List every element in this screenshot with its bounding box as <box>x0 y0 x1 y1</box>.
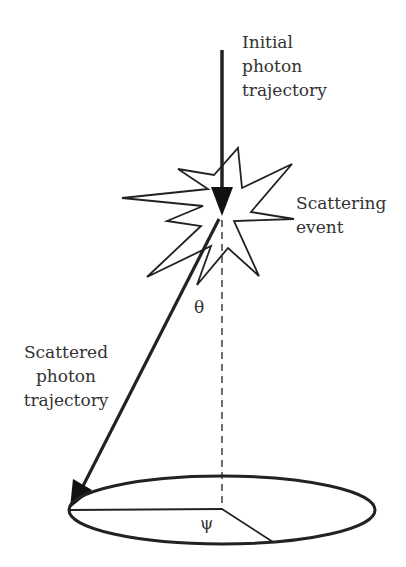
scattering-diagram <box>0 0 406 567</box>
label-line: trajectory <box>242 78 327 102</box>
scattering-event-label: Scattering event <box>296 191 386 239</box>
label-line: photon <box>242 54 327 78</box>
label-line: trajectory <box>18 388 114 412</box>
scattering-event-star <box>122 148 294 285</box>
label-line: event <box>296 215 386 239</box>
radius-line-right <box>222 509 273 542</box>
label-line: Scattering <box>296 191 386 215</box>
label-line: photon <box>18 364 114 388</box>
psi-symbol: ψ <box>200 513 213 533</box>
label-line: Scattered <box>18 340 114 364</box>
scattered-trajectory-label: Scattered photon trajectory <box>18 340 114 412</box>
initial-trajectory-label: Initial photon trajectory <box>242 30 327 102</box>
label-line: Initial <box>242 30 327 54</box>
theta-symbol: θ <box>194 297 204 317</box>
radius-line-left <box>70 509 222 510</box>
